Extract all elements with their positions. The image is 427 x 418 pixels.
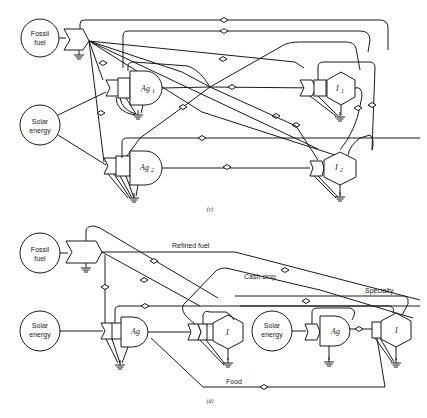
svg-text:Solar: Solar (264, 322, 281, 329)
svg-text:I: I (394, 326, 398, 335)
food-label: Food (226, 378, 242, 385)
svg-text:1: 1 (341, 88, 344, 94)
energy-systems-diagram: Fossil fuel Solar energy (0, 0, 427, 418)
svg-text:fuel: fuel (34, 39, 46, 46)
solar-energy-source: Solar energy (20, 105, 60, 145)
svg-text:I: I (335, 84, 339, 93)
svg-text:Ag: Ag (130, 327, 140, 336)
svg-text:energy: energy (261, 331, 283, 339)
solar-energy-source-right: Solar energy (252, 311, 292, 351)
svg-text:I: I (225, 328, 229, 337)
svg-text:energy: energy (29, 127, 51, 135)
svg-text:Ag: Ag (140, 84, 150, 93)
svg-text:Fossil: Fossil (31, 30, 50, 37)
svg-text:2: 2 (151, 167, 154, 173)
fossil-fuel-source-d: Fossil fuel (20, 233, 60, 273)
specialty-label: Specialty (365, 287, 394, 295)
svg-text:Solar: Solar (32, 322, 49, 329)
svg-text:1: 1 (152, 88, 155, 94)
svg-text:Ag: Ag (330, 327, 340, 336)
cash-crop-label: Cash crop (244, 273, 276, 281)
fossil-interaction-gate (64, 29, 89, 50)
diagram-d: Fossil fuel Refined fuel Solar energy Ag (20, 226, 420, 405)
caption-c: (c) (207, 206, 214, 213)
svg-text:Solar: Solar (32, 118, 49, 125)
svg-text:fuel: fuel (34, 255, 46, 262)
svg-text:Fossil: Fossil (31, 246, 50, 253)
svg-text:energy: energy (29, 331, 51, 339)
fossil-fuel-source: Fossil fuel (21, 19, 59, 57)
solar-energy-source-left: Solar energy (20, 311, 60, 351)
caption-d: (d) (207, 398, 214, 405)
svg-text:2: 2 (340, 167, 343, 173)
diagram-c: Fossil fuel Solar energy (20, 18, 420, 214)
svg-text:Ag: Ag (139, 163, 149, 172)
svg-text:I: I (334, 163, 338, 172)
refined-fuel-label: Refined fuel (172, 242, 210, 249)
